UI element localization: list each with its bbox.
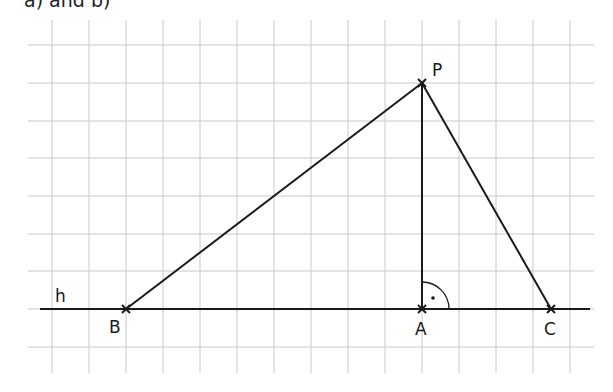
label-P: P <box>432 60 442 80</box>
label-h: h <box>55 286 66 306</box>
label-A: A <box>415 319 427 339</box>
label-B: B <box>109 317 121 337</box>
label-C: C <box>544 319 556 339</box>
geometry-diagram: P B A C h <box>0 0 613 392</box>
right-angle-dot-icon <box>431 296 435 300</box>
right-angle-arc-icon <box>422 282 449 309</box>
